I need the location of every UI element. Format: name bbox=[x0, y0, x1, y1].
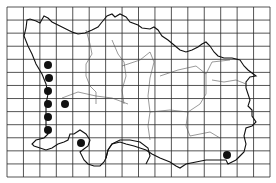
record-dot bbox=[223, 151, 231, 159]
record-dot bbox=[44, 61, 52, 69]
record-dot bbox=[44, 100, 52, 108]
record-dot bbox=[44, 126, 52, 134]
map-canvas bbox=[0, 0, 276, 183]
record-dot bbox=[77, 139, 85, 147]
distribution-map bbox=[0, 0, 276, 183]
record-dot bbox=[44, 113, 52, 121]
record-dot bbox=[45, 74, 53, 82]
record-dot bbox=[61, 100, 69, 108]
record-dot bbox=[44, 87, 52, 95]
